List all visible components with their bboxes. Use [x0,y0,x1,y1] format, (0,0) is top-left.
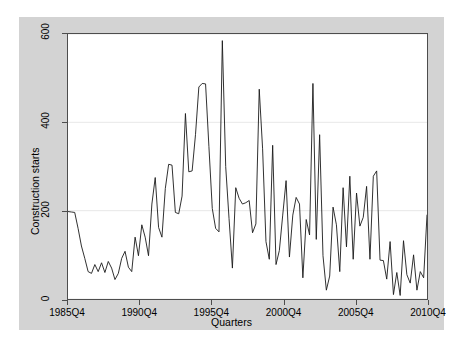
x-tick-mark [284,300,285,305]
figure-canvas: Construction starts 0200400600 1985Q4199… [19,17,444,330]
y-tick-label: 200 [40,197,51,223]
y-tick-label: 600 [40,19,51,45]
x-tick-mark [356,300,357,305]
y-axis-title-container: Construction starts [16,67,36,267]
plot-area [67,33,428,300]
x-tick-mark [428,300,429,305]
y-tick-label: 400 [40,108,51,134]
x-axis-title: Quarters [19,316,444,328]
line-chart-svg [68,34,427,299]
x-tick-mark [67,300,68,305]
series-line-construction-starts [68,41,427,296]
x-tick-mark [139,300,140,305]
x-tick-mark [211,300,212,305]
